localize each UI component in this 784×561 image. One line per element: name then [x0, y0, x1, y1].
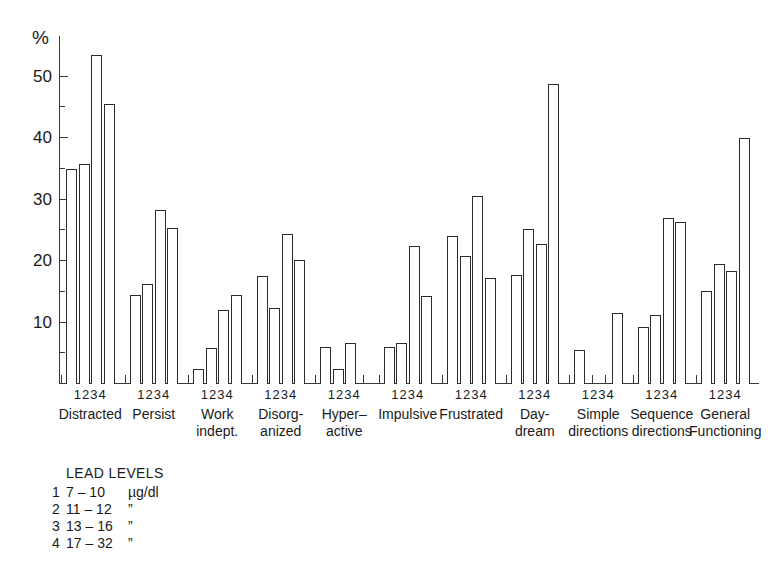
- legend-title: LEAD LEVELS: [66, 465, 164, 482]
- legend-row: 313 – 16”: [52, 518, 164, 535]
- bar: [167, 228, 178, 384]
- bar-chart: % 1020304050 1234Distracted1234Persist12…: [0, 0, 784, 561]
- y-tick-label-10: 10: [20, 314, 52, 331]
- legend-key: 3: [52, 518, 66, 535]
- legend: LEAD LEVELS 17 – 10µg/dl211 – 12”313 – 1…: [52, 465, 164, 552]
- bar: [726, 271, 737, 384]
- bar: [638, 327, 649, 384]
- bar: [650, 315, 661, 384]
- bar: [218, 310, 229, 384]
- legend-range: 17 – 32: [66, 535, 128, 552]
- bar: [447, 236, 458, 384]
- y-tick-label-40: 40: [20, 129, 52, 146]
- legend-unit: ”: [128, 501, 133, 517]
- bar: [701, 291, 712, 384]
- bar: [421, 296, 432, 384]
- legend-range: 11 – 12: [66, 501, 128, 518]
- bar: [91, 55, 102, 384]
- bar: [396, 343, 407, 384]
- bar: [142, 284, 153, 384]
- bar: [523, 229, 534, 384]
- group-level-numbers: 1234: [312, 388, 377, 402]
- bar: [612, 313, 623, 384]
- bar: [384, 347, 395, 384]
- group-level-numbers: 1234: [122, 388, 187, 402]
- group-level-numbers: 1234: [249, 388, 314, 402]
- bar: [66, 169, 77, 384]
- bar: [320, 347, 331, 384]
- bar: [472, 196, 483, 384]
- group-label-line: active: [301, 423, 388, 440]
- legend-row: 211 – 12”: [52, 501, 164, 518]
- y-axis-unit-label: %: [32, 28, 48, 47]
- bar: [206, 348, 217, 384]
- bar: [548, 84, 559, 384]
- bar: [104, 104, 115, 384]
- legend-range: 7 – 10: [66, 484, 128, 501]
- group-level-numbers: 1234: [693, 388, 758, 402]
- bars-layer: [60, 36, 760, 384]
- legend-key: 4: [52, 535, 66, 552]
- group-label-line: Functioning: [682, 423, 769, 440]
- group-label-line: General: [682, 406, 769, 423]
- group-label: GeneralFunctioning: [682, 406, 769, 440]
- group-level-numbers: 1234: [439, 388, 504, 402]
- group-level-numbers: 1234: [185, 388, 250, 402]
- y-tick-label-20: 20: [20, 252, 52, 269]
- group-level-numbers: 1234: [630, 388, 695, 402]
- bar: [574, 350, 585, 384]
- bar: [485, 278, 496, 384]
- bar: [79, 164, 90, 384]
- legend-key: 1: [52, 484, 66, 501]
- bar: [739, 138, 750, 384]
- bar: [714, 264, 725, 384]
- legend-rows: 17 – 10µg/dl211 – 12”313 – 16”417 – 32”: [52, 484, 164, 552]
- bar: [282, 234, 293, 384]
- group-level-numbers: 1234: [376, 388, 441, 402]
- y-tick-label-50: 50: [20, 68, 52, 85]
- bar: [345, 343, 356, 384]
- bar: [294, 260, 305, 384]
- bar: [675, 222, 686, 384]
- legend-unit: ”: [128, 518, 133, 534]
- legend-row: 17 – 10µg/dl: [52, 484, 164, 501]
- bar: [193, 369, 204, 384]
- group-level-numbers: 1234: [58, 388, 123, 402]
- legend-key: 2: [52, 501, 66, 518]
- group-level-numbers: 1234: [503, 388, 568, 402]
- bar: [155, 210, 166, 384]
- bar: [231, 295, 242, 384]
- legend-unit: ”: [128, 535, 133, 551]
- bar: [536, 244, 547, 384]
- group-level-numbers: 1234: [566, 388, 631, 402]
- bar: [409, 246, 420, 384]
- bar: [269, 308, 280, 384]
- bar: [663, 218, 674, 384]
- y-tick-label-30: 30: [20, 191, 52, 208]
- bar: [257, 276, 268, 384]
- legend-range: 13 – 16: [66, 518, 128, 535]
- bar: [511, 275, 522, 384]
- bar: [460, 256, 471, 384]
- bar: [333, 369, 344, 384]
- bar: [130, 295, 141, 384]
- legend-row: 417 – 32”: [52, 535, 164, 552]
- legend-unit: µg/dl: [128, 484, 159, 500]
